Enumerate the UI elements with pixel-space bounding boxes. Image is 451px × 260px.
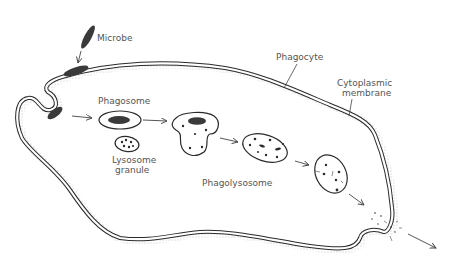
label-lysosome-2: granule: [115, 165, 150, 175]
label-microbe: Microbe: [97, 33, 133, 43]
phagosome: [99, 111, 141, 129]
phagocytosis-diagram: Microbe Phagocyte Cytoplasmic membrane P…: [0, 0, 451, 260]
free-microbe: [79, 24, 98, 50]
lysosome-granule: [114, 135, 140, 153]
label-phagolysosome: Phagolysosome: [202, 178, 273, 188]
release-arrow: [408, 234, 436, 248]
fusing-phagolysosome: [172, 112, 218, 155]
microbe-approach-arrow: [78, 51, 81, 63]
phagocyte-leader-line: [284, 64, 297, 88]
exocytosis-arrow: [349, 194, 364, 205]
phagolysosome: [239, 129, 291, 168]
label-phagocyte: Phagocyte: [276, 52, 324, 62]
phagocyte-cell: [17, 63, 395, 250]
residual-body: [308, 149, 353, 198]
engulf-arrow: [72, 116, 92, 118]
cytoplasm-stipple: [20, 65, 395, 250]
digestion-arrow: [295, 161, 309, 165]
label-cytoplasmic-membrane-1: Cytoplasmic: [337, 78, 392, 88]
cytoplasmic-membrane-inner: [17, 63, 392, 248]
label-cytoplasmic-membrane-2: membrane: [342, 88, 392, 98]
phagosome-arrow: [143, 120, 167, 121]
cytoplasmic-membrane-outer: [17, 63, 392, 248]
label-phagosome: Phagosome: [98, 96, 151, 106]
label-lysosome-1: Lysosome: [112, 155, 157, 165]
fusion-arrow: [220, 138, 238, 142]
